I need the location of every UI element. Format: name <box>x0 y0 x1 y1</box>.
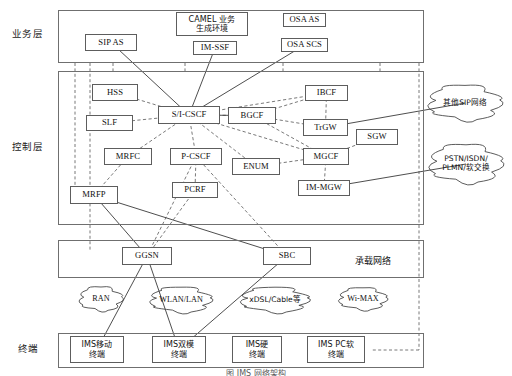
bearer-network-caption: 承载网络 <box>355 254 391 267</box>
node-im-mgw[interactable]: IM-MGW <box>298 180 350 196</box>
node-ggsn[interactable]: GGSN <box>122 247 172 265</box>
node-label: GGSN <box>135 251 159 260</box>
node-label: OSA AS <box>290 15 320 24</box>
node-label: TrGW <box>314 123 337 132</box>
node-label: SBC <box>279 251 296 260</box>
node-label: IMS PC软终端 <box>318 340 354 358</box>
node-label: IBCF <box>317 88 337 97</box>
layer-label-service: 业务层 <box>12 26 43 40</box>
cloud-label-other-sip: 其他SIP网络 <box>413 98 512 107</box>
node-slf[interactable]: SLF <box>86 115 133 131</box>
figure-caption: 图 IMS 网络架构 <box>0 367 512 376</box>
node-label: MRFC <box>116 152 140 161</box>
node-pcrf[interactable]: PCRF <box>172 182 218 198</box>
layer-label-control: 控制层 <box>12 139 43 153</box>
node-label: IMS硬终端 <box>246 340 269 358</box>
node-osa-as[interactable]: OSA AS <box>283 13 326 27</box>
node-osa-scs[interactable]: OSA SCS <box>281 38 328 52</box>
node-trgw[interactable]: TrGW <box>303 119 348 136</box>
cloud-label-wimax: Wi-MAX <box>311 294 415 304</box>
node-label: MGCF <box>314 152 339 161</box>
node-ibcf[interactable]: IBCF <box>305 85 348 101</box>
layer-label-terminal: 终端 <box>18 341 39 355</box>
node-sbc[interactable]: SBC <box>263 247 311 265</box>
node-label: OSA SCS <box>287 40 322 49</box>
node-si-cscf[interactable]: S/I-CSCF <box>158 106 220 124</box>
node-ims-pc[interactable]: IMS PC软终端 <box>307 336 365 363</box>
cloud-label-wlan: WLAN/LAN <box>129 295 233 305</box>
node-hss[interactable]: HSS <box>92 84 138 101</box>
ims-architecture-diagram: 业务层控制层终端 承载网络 SIP ASCAMEL 业务生成环境IM-SSFOS… <box>0 0 512 376</box>
node-label: SLF <box>102 118 117 127</box>
node-bgcf[interactable]: BGCF <box>228 107 276 124</box>
node-sip-as[interactable]: SIP AS <box>85 34 137 51</box>
node-label: SIP AS <box>98 38 123 47</box>
node-sgw[interactable]: SGW <box>356 129 398 145</box>
node-label: ENUM <box>243 162 269 171</box>
node-label: P-CSCF <box>181 152 210 161</box>
node-label: CAMEL 业务生成环境 <box>189 15 236 33</box>
node-p-cscf[interactable]: P-CSCF <box>170 148 222 165</box>
node-ims-mobile[interactable]: IMS移动终端 <box>70 336 124 363</box>
node-label: PCRF <box>184 185 205 194</box>
node-label: HSS <box>107 88 123 97</box>
node-ims-dual[interactable]: IMS双模终端 <box>152 336 206 363</box>
node-mrfp[interactable]: MRFP <box>70 186 118 204</box>
node-label: IMS移动终端 <box>82 340 113 358</box>
node-label: MRFP <box>82 190 105 199</box>
node-label: S/I-CSCF <box>172 110 207 119</box>
node-ims-hard[interactable]: IMS硬终端 <box>232 336 282 363</box>
node-mrfc[interactable]: MRFC <box>104 148 152 165</box>
cloud-label-pstn: PSTN/ISDN/PLMN/软交换 <box>414 154 512 172</box>
node-mgcf[interactable]: MGCF <box>303 148 349 165</box>
node-label: IMS双模终端 <box>164 340 195 358</box>
node-label: IM-MGW <box>306 183 342 192</box>
node-label: SGW <box>367 132 386 141</box>
node-camel[interactable]: CAMEL 业务生成环境 <box>176 12 248 36</box>
node-enum[interactable]: ENUM <box>232 158 280 175</box>
node-im-ssf[interactable]: IM-SSF <box>193 41 237 55</box>
node-label: BGCF <box>241 111 264 120</box>
node-label: IM-SSF <box>201 43 229 52</box>
